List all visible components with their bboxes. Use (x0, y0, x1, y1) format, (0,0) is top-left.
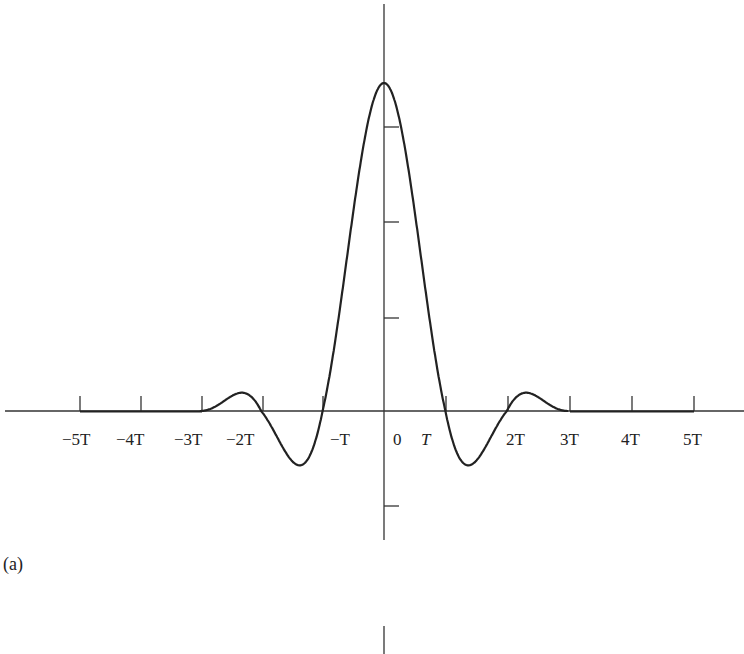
x-tick-label-pos3T: 3T (560, 430, 579, 450)
x-tick-label-neg4T: −4T (116, 430, 144, 450)
x-tick-label-pos2T: 2T (506, 430, 525, 450)
x-tick-label-neg2T: −2T (226, 430, 254, 450)
x-tick-label-negT: −T (330, 430, 350, 450)
panel-label: (a) (3, 554, 23, 575)
x-tick-label-T: T (421, 430, 430, 450)
x-ticks (80, 396, 694, 411)
x-tick-label-neg5T: −5T (62, 430, 90, 450)
x-tick-label-pos5T: 5T (683, 430, 702, 450)
x-tick-label-pos4T: 4T (621, 430, 640, 450)
x-tick-label-neg3T: −3T (174, 430, 202, 450)
pulse-chart (0, 0, 744, 654)
x-tick-label-zero: 0 (393, 430, 402, 450)
